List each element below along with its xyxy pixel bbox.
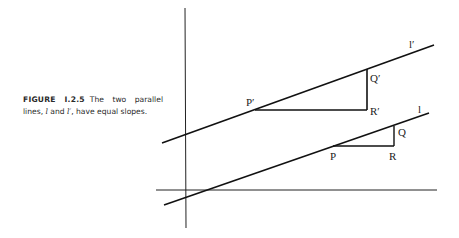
label-P: P [330, 150, 336, 162]
parallel-lines-diagram: l′ Q′ P′ R′ l Q P R [0, 0, 459, 238]
y-axis [185, 8, 186, 228]
label-Q-prime: Q′ [370, 72, 380, 84]
label-P-prime: P′ [246, 96, 255, 108]
label-l: l [418, 103, 421, 115]
label-Q: Q [398, 126, 406, 138]
label-l-prime: l′ [409, 38, 414, 50]
line-l-prime [162, 45, 434, 143]
label-R: R [389, 150, 397, 162]
label-R-prime: R′ [370, 105, 380, 117]
